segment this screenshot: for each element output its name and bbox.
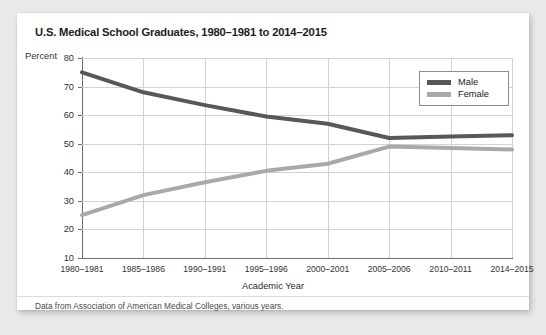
footer-divider [17, 296, 529, 297]
source-note: Data from Association of American Medica… [35, 301, 284, 311]
legend-item-male[interactable]: Male [420, 76, 508, 88]
legend-swatch-icon [427, 80, 451, 85]
y-tick-label: 80 [52, 53, 74, 63]
legend-label: Female [458, 89, 489, 99]
y-tick-mark [78, 258, 82, 259]
x-tick-label: 2000–2001 [306, 264, 349, 274]
y-tick-label: 70 [52, 82, 74, 92]
legend-swatch-icon [427, 92, 451, 97]
series-line-female [82, 147, 512, 216]
x-tick-label: 1995–1996 [245, 264, 288, 274]
y-tick-label: 60 [52, 110, 74, 120]
y-tick-label: 10 [52, 253, 74, 263]
page-title: U.S. Medical School Graduates, 1980–1981… [35, 26, 327, 38]
gridline-vertical [512, 58, 513, 258]
chart-legend: MaleFemale [419, 71, 509, 106]
x-tick-label: 2014–2015 [490, 264, 533, 274]
y-tick-label: 40 [52, 167, 74, 177]
y-tick-label: 30 [52, 196, 74, 206]
legend-label: Male [458, 77, 478, 87]
legend-item-female[interactable]: Female [420, 88, 508, 100]
x-tick-label: 1980–1981 [60, 264, 103, 274]
x-axis-line [82, 258, 513, 259]
x-tick-label: 2010–2011 [429, 264, 471, 274]
y-tick-label: 50 [52, 139, 74, 149]
x-tick-label: 1985–1986 [122, 264, 165, 274]
y-tick-label: 20 [52, 224, 74, 234]
x-tick-label: 2005–2006 [368, 264, 411, 274]
chart-card: U.S. Medical School Graduates, 1980–1981… [17, 13, 529, 310]
x-tick-label: 1990–1991 [183, 264, 226, 274]
x-axis-title: Academic Year [17, 281, 529, 291]
